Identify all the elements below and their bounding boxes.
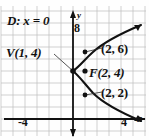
y-tick-label-8: 8	[74, 22, 80, 34]
x-tick-label-neg4: -4	[18, 116, 28, 128]
parabola-figure: D: x = 0 V(1, 4) F(2, 4) (2, 6) (2, 2) y…	[0, 0, 149, 140]
point-lower-label: (2, 2)	[101, 86, 128, 99]
focus-label: F(2, 4)	[89, 66, 124, 79]
vertex-label: V(1, 4)	[6, 46, 41, 59]
directrix-label: D: x = 0	[7, 14, 49, 27]
leader-vertex	[54, 54, 73, 71]
point-vertex	[70, 68, 76, 74]
x-tick-label-4: 4	[121, 116, 127, 128]
point-upper-label: (2, 6)	[101, 42, 128, 55]
x-axis-label: x	[137, 114, 142, 124]
point-2-6	[83, 50, 88, 55]
point-2-2	[83, 93, 88, 98]
y-axis-label: y	[77, 11, 81, 20]
point-focus	[82, 68, 87, 73]
